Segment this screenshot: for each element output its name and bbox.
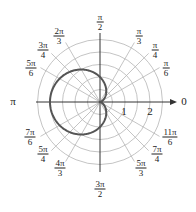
angle-label-pi-over-3: π3 bbox=[136, 27, 143, 46]
angle-label-7pi-over-4: 7π4 bbox=[151, 145, 162, 164]
angle-label-5pi-over-6: 5π6 bbox=[25, 59, 36, 78]
angle-label-zero: 0 bbox=[181, 97, 187, 106]
angle-label-3pi-over-4: 3π4 bbox=[37, 41, 48, 60]
radial-label-1: 1 bbox=[121, 107, 127, 116]
angle-label-7pi-over-6: 7π6 bbox=[24, 128, 35, 147]
angle-label-pi: π bbox=[10, 97, 16, 106]
angle-label-5pi-over-3: 5π3 bbox=[135, 159, 146, 178]
angle-label-11pi-over-6: 11π6 bbox=[162, 128, 177, 147]
radial-label-2: 2 bbox=[147, 107, 153, 116]
angle-label-3pi-over-2: 3π2 bbox=[94, 180, 105, 199]
arrow-icon bbox=[170, 99, 177, 105]
angle-label-pi-over-4: π4 bbox=[152, 41, 159, 60]
angle-label-pi-over-6: π6 bbox=[163, 59, 170, 78]
angle-label-2pi-over-3: 2π3 bbox=[53, 27, 64, 46]
angle-label-pi-over-2: π2 bbox=[97, 13, 104, 32]
angle-label-5pi-over-4: 5π4 bbox=[37, 145, 48, 164]
angle-label-4pi-over-3: 4π3 bbox=[54, 159, 65, 178]
